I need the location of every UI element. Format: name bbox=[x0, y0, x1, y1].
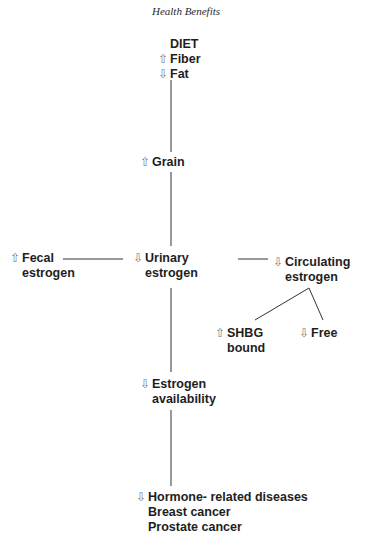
urinary-line-1: Urinary bbox=[145, 251, 189, 265]
diet-fiber-label: Fiber bbox=[170, 52, 201, 66]
up-arrow-icon: ⇧ bbox=[10, 251, 22, 266]
down-arrow-icon: ⇩ bbox=[158, 67, 170, 82]
down-arrow-icon: ⇩ bbox=[299, 326, 311, 341]
connector-circulating-free bbox=[309, 288, 323, 320]
shbg-line-1: SHBG bbox=[227, 326, 263, 340]
node-urinary-estrogen: ⇩Urinary estrogen bbox=[133, 251, 198, 281]
down-arrow-icon: ⇩ bbox=[273, 255, 285, 270]
node-diet: DIET ⇧Fiber ⇩Fat bbox=[158, 37, 201, 82]
up-arrow-icon: ⇧ bbox=[140, 155, 152, 170]
down-arrow-icon: ⇩ bbox=[133, 251, 145, 266]
fecal-line-1: Fecal bbox=[22, 251, 54, 265]
diseases-line-1: Hormone- related diseases bbox=[148, 490, 308, 504]
diseases-line-3: Prostate cancer bbox=[148, 520, 242, 533]
free-label: Free bbox=[311, 326, 337, 340]
node-shbg-bound: ⇧SHBG bound bbox=[215, 326, 265, 356]
node-circulating-estrogen: ⇩Circulating estrogen bbox=[273, 255, 350, 285]
fecal-line-2: estrogen bbox=[22, 266, 75, 280]
grain-label: Grain bbox=[152, 155, 185, 169]
connector-circulating-shbg bbox=[255, 288, 309, 320]
availability-line-2: availability bbox=[152, 392, 216, 406]
diet-fat-label: Fat bbox=[170, 67, 189, 81]
node-hormone-diseases: ⇩Hormone- related diseases Breast cancer… bbox=[136, 490, 308, 533]
diseases-line-2: Breast cancer bbox=[148, 505, 231, 519]
shbg-line-2: bound bbox=[227, 341, 265, 355]
node-grain: ⇧Grain bbox=[140, 155, 185, 170]
up-arrow-icon: ⇧ bbox=[215, 326, 227, 341]
node-fecal-estrogen: ⇧Fecal estrogen bbox=[10, 251, 75, 281]
down-arrow-icon: ⇩ bbox=[136, 490, 148, 505]
down-arrow-icon: ⇩ bbox=[140, 377, 152, 392]
circulating-line-2: estrogen bbox=[285, 270, 338, 284]
urinary-line-2: estrogen bbox=[145, 266, 198, 280]
availability-line-1: Estrogen bbox=[152, 377, 206, 391]
circulating-line-1: Circulating bbox=[285, 255, 350, 269]
diet-title: DIET bbox=[170, 37, 198, 51]
node-estrogen-availability: ⇩Estrogen availability bbox=[140, 377, 216, 407]
up-arrow-icon: ⇧ bbox=[158, 52, 170, 67]
node-free: ⇩Free bbox=[299, 326, 337, 341]
